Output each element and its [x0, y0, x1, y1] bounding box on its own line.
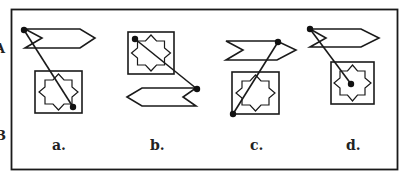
connector-line — [135, 39, 197, 89]
endpoint-dot — [21, 27, 27, 33]
option-label: b. — [150, 137, 165, 153]
fragment-a: A — [0, 41, 6, 56]
option-label: d. — [346, 137, 361, 153]
option-d[interactable]: d. — [307, 26, 379, 153]
pennant-shape — [25, 29, 95, 48]
option-label: c. — [250, 137, 263, 153]
option-b[interactable]: b. — [127, 32, 200, 153]
edge-fragments: A B — [0, 41, 6, 143]
pennant-shape — [226, 41, 296, 60]
pennant-shape — [310, 29, 379, 47]
endpoint-dot — [307, 26, 313, 32]
endpoint-dot — [230, 111, 236, 117]
option-a[interactable]: a. — [21, 27, 95, 153]
endpoint-dot — [132, 36, 138, 42]
endpoint-dot — [348, 81, 354, 87]
endpoint-dot — [194, 86, 200, 92]
option-label: a. — [52, 137, 66, 153]
option-c[interactable]: c. — [226, 39, 296, 153]
connector-line — [24, 30, 73, 107]
fragment-b: B — [0, 128, 6, 143]
figure-canvas: A B a. b. c. — [0, 0, 405, 175]
endpoint-dot — [275, 39, 281, 45]
endpoint-dot — [70, 104, 76, 110]
pennant-shape — [127, 88, 196, 106]
